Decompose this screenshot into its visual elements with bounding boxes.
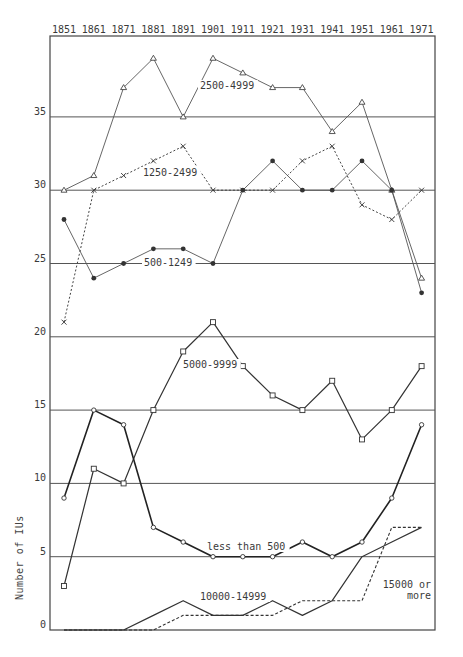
square-marker <box>330 378 335 383</box>
series-1250-2499 <box>62 144 425 325</box>
y-tick-label: 10 <box>34 472 46 483</box>
dot-marker <box>270 158 275 163</box>
dot-marker <box>121 261 126 266</box>
circle-marker <box>241 555 245 559</box>
x-tick-label: 1911 <box>231 24 255 35</box>
x-marker <box>300 158 305 163</box>
y-tick-label: 35 <box>34 106 46 117</box>
square-marker <box>270 393 275 398</box>
x-tick-label: 1971 <box>410 24 434 35</box>
circle-marker <box>300 540 304 544</box>
y-tick-label: 30 <box>34 179 46 190</box>
series-labels: 2500-49991250-2499500-12495000-9999less … <box>141 80 433 602</box>
square-marker <box>62 584 67 589</box>
triangle-marker <box>210 55 216 60</box>
dot-marker <box>211 261 216 266</box>
x-marker <box>181 144 186 149</box>
x-marker <box>330 144 335 149</box>
circle-marker <box>121 423 125 427</box>
series-label: less than 500 <box>207 541 285 552</box>
y-tick-label: 0 <box>40 619 46 630</box>
circle-marker <box>330 555 334 559</box>
x-axis-tick-labels: 1851186118711881189119011911192119311941… <box>52 24 434 35</box>
x-tick-label: 1901 <box>201 24 225 35</box>
x-tick-label: 1881 <box>141 24 165 35</box>
dot-marker <box>300 188 305 193</box>
square-marker <box>121 481 126 486</box>
triangle-marker <box>91 173 97 178</box>
series-label: 2500-4999 <box>200 80 254 91</box>
x-tick-label: 1891 <box>171 24 195 35</box>
circle-marker <box>62 496 66 500</box>
circle-marker <box>151 525 155 529</box>
y-tick-label: 15 <box>34 399 46 410</box>
square-marker <box>300 408 305 413</box>
series-label: more <box>407 590 431 601</box>
triangle-marker <box>270 85 276 90</box>
square-marker <box>240 364 245 369</box>
x-tick-label: 1861 <box>82 24 106 35</box>
x-tick-label: 1851 <box>52 24 76 35</box>
y-axis-label: Number of IUs <box>14 515 25 600</box>
circle-marker <box>181 540 185 544</box>
dot-marker <box>419 290 424 295</box>
circle-marker <box>360 540 364 544</box>
dot-marker <box>91 276 96 281</box>
x-marker <box>151 158 156 163</box>
square-marker <box>211 320 216 325</box>
square-marker <box>181 349 186 354</box>
circle-marker <box>390 496 394 500</box>
series-label: 10000-14999 <box>200 591 266 602</box>
x-marker <box>121 173 126 178</box>
y-tick-label: 25 <box>34 253 46 264</box>
square-marker <box>151 408 156 413</box>
x-tick-label: 1921 <box>261 24 285 35</box>
series-label: 500-1249 <box>144 257 192 268</box>
x-tick-label: 1871 <box>112 24 136 35</box>
x-tick-label: 1931 <box>290 24 314 35</box>
y-tick-label: 20 <box>34 326 46 337</box>
series-label: 1250-2499 <box>143 167 197 178</box>
dot-marker <box>389 188 394 193</box>
x-marker <box>360 202 365 207</box>
circle-marker <box>211 555 215 559</box>
square-marker <box>419 364 424 369</box>
dot-marker <box>181 246 186 251</box>
square-marker <box>389 408 394 413</box>
gridlines <box>50 117 435 557</box>
square-marker <box>91 466 96 471</box>
dot-marker <box>240 188 245 193</box>
series-label: 15000 or <box>383 579 431 590</box>
circle-marker <box>419 423 423 427</box>
dot-marker <box>151 246 156 251</box>
dot-marker <box>330 188 335 193</box>
triangle-marker <box>240 70 246 75</box>
triangle-marker <box>419 275 425 280</box>
circle-marker <box>270 555 274 559</box>
dot-marker <box>62 217 67 222</box>
x-tick-label: 1941 <box>320 24 344 35</box>
dot-marker <box>360 158 365 163</box>
triangle-marker <box>359 99 365 104</box>
chart-canvas: 1851186118711881189119011911192119311941… <box>0 0 463 657</box>
circle-marker <box>92 408 96 412</box>
x-tick-label: 1961 <box>380 24 404 35</box>
y-tick-label: 5 <box>40 546 46 557</box>
triangle-marker <box>150 55 156 60</box>
line-chart: 1851186118711881189119011911192119311941… <box>0 0 463 657</box>
triangle-marker <box>299 85 305 90</box>
y-axis-tick-labels: 05101520253035 <box>34 106 46 630</box>
square-marker <box>360 437 365 442</box>
series-label: 5000-9999 <box>183 359 237 370</box>
x-tick-label: 1951 <box>350 24 374 35</box>
x-marker <box>389 217 394 222</box>
